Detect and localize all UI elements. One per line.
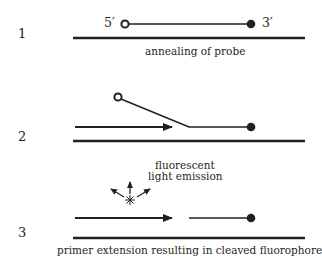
- three-prime-label: 3′: [262, 15, 273, 30]
- step-3-graphic: [73, 182, 305, 238]
- reporter-open-circle-icon: [114, 93, 121, 100]
- reporter-open-circle-icon: [121, 20, 128, 27]
- step-number-1: 1: [18, 26, 26, 41]
- emission-star-icon: [125, 195, 135, 205]
- displaced-probe-flap: [121, 99, 250, 127]
- quencher-filled-circle-icon: [247, 20, 256, 29]
- quencher-filled-circle-icon: [247, 214, 256, 223]
- light-arrow-right-icon: [137, 189, 150, 197]
- step-1-caption: annealing of probe: [145, 45, 245, 57]
- light-arrow-left-icon: [111, 189, 124, 197]
- step-2-caption-line-2: light emission: [148, 170, 223, 182]
- quencher-filled-circle-icon: [247, 123, 256, 132]
- step-number-2: 2: [18, 129, 26, 144]
- five-prime-label: 5′: [104, 15, 115, 30]
- step-2-graphic: [73, 93, 305, 141]
- step-number-3: 3: [18, 225, 26, 240]
- step-3-caption: primer extension resulting in cleaved fl…: [57, 244, 322, 256]
